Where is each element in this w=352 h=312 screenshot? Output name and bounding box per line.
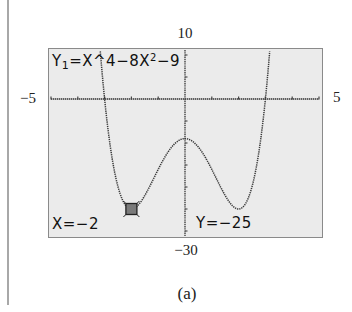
trace-cursor bbox=[123, 201, 139, 217]
cursor-x-readout: X=−2 bbox=[52, 217, 99, 232]
graph-plot bbox=[0, 0, 352, 312]
figure-caption: (a) bbox=[178, 284, 197, 304]
cursor-y-readout: Y=−25 bbox=[196, 216, 252, 231]
axes bbox=[51, 50, 319, 236]
equation-label: Y1=X^4−8X2−9 bbox=[52, 53, 180, 71]
